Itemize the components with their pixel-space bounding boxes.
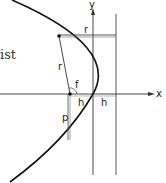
curve-point (57, 34, 61, 38)
label-p: p (62, 112, 68, 123)
text-fragment: ist (0, 47, 17, 62)
parabola-diagram: y x r r f h h p ist (0, 0, 166, 183)
diagram-canvas: y x r r f h h p ist (0, 0, 166, 183)
label-r-top: r (84, 24, 89, 35)
x-axis-label: x (156, 88, 162, 99)
label-r-focal: r (58, 61, 63, 72)
label-angle-f: f (75, 79, 79, 90)
label-h-left: h (78, 97, 84, 108)
label-h-right: h (101, 97, 107, 108)
y-axis-label: y (89, 0, 95, 10)
x-axis-arrow-icon (148, 92, 155, 96)
